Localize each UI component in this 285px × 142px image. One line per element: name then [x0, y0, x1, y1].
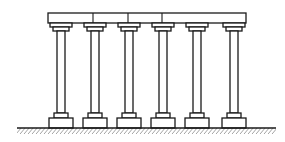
- base-upper: [54, 113, 68, 118]
- columns-group: [49, 23, 246, 128]
- base-upper: [190, 113, 204, 118]
- colonnade-drawing: [0, 0, 285, 142]
- entablature-beam: [48, 13, 246, 23]
- ground-hatch: [17, 128, 276, 134]
- column-shaft: [230, 31, 238, 113]
- column: [83, 23, 107, 128]
- base-plinth: [222, 118, 246, 128]
- base-upper: [122, 113, 136, 118]
- column: [151, 23, 175, 128]
- column: [222, 23, 246, 128]
- base-plinth: [185, 118, 209, 128]
- base-upper: [88, 113, 102, 118]
- base-plinth: [83, 118, 107, 128]
- base-upper: [156, 113, 170, 118]
- colonnade-diagram: [0, 0, 285, 142]
- column-shaft: [91, 31, 99, 113]
- column-shaft: [57, 31, 65, 113]
- base-plinth: [117, 118, 141, 128]
- column: [117, 23, 141, 128]
- column: [49, 23, 73, 128]
- column-shaft: [159, 31, 167, 113]
- column-shaft: [193, 31, 201, 113]
- ground-line: [17, 128, 276, 134]
- column-shaft: [125, 31, 133, 113]
- base-plinth: [49, 118, 73, 128]
- column: [185, 23, 209, 128]
- beam-rect: [48, 13, 246, 23]
- base-upper: [227, 113, 241, 118]
- base-plinth: [151, 118, 175, 128]
